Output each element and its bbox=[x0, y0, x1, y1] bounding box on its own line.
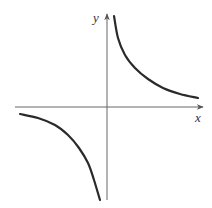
hyperbola-chart: y x bbox=[0, 0, 212, 208]
curve-branch-quadrant-one bbox=[114, 16, 198, 98]
curve-branch-quadrant-three bbox=[20, 114, 100, 200]
plot-area: y x bbox=[0, 0, 212, 208]
x-axis-label: x bbox=[194, 110, 201, 125]
y-axis-label: y bbox=[91, 10, 99, 25]
